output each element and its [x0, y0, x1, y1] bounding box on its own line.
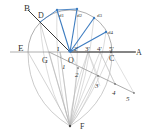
construction-arcs — [40, 9, 111, 126]
point-2 — [77, 67, 79, 69]
point-d2 — [76, 8, 78, 10]
label-2prime: 2' — [74, 46, 78, 52]
point-d4 — [105, 31, 107, 33]
label-b: B — [24, 3, 30, 13]
label-4prime: 4' — [97, 45, 102, 53]
label-d2: d2 — [77, 13, 83, 18]
label-e: E — [18, 43, 24, 53]
lines-to-f — [28, 22, 96, 126]
label-c: C — [109, 54, 114, 63]
label-o: O — [68, 56, 74, 65]
point-5 — [133, 92, 135, 94]
label-d: D — [38, 11, 44, 20]
construction-diagram: B D E G I O 2' 3' 4' 5' C A F d1 d2 d3 d… — [0, 0, 143, 136]
point-o — [68, 49, 72, 53]
point-d1 — [56, 9, 58, 11]
label-f: F — [80, 122, 85, 131]
point-d3 — [93, 17, 95, 19]
label-d4: d4 — [108, 30, 114, 35]
label-d3: d3 — [97, 13, 103, 18]
point-3 — [97, 75, 99, 77]
label-5prime: 5' — [109, 45, 114, 53]
label-g: G — [42, 56, 48, 65]
label-div-2: 2 — [75, 71, 79, 79]
label-div-4: 4 — [112, 89, 116, 97]
label-a: A — [136, 48, 142, 57]
point-4 — [114, 83, 116, 85]
label-div-3: 3 — [94, 82, 99, 90]
division-line — [49, 52, 134, 93]
label-3prime: 3' — [85, 45, 90, 53]
label-d1: d1 — [59, 13, 65, 18]
point-f — [69, 125, 71, 127]
label-div-5: 5 — [126, 95, 130, 103]
label-div-1: 1 — [62, 63, 66, 71]
